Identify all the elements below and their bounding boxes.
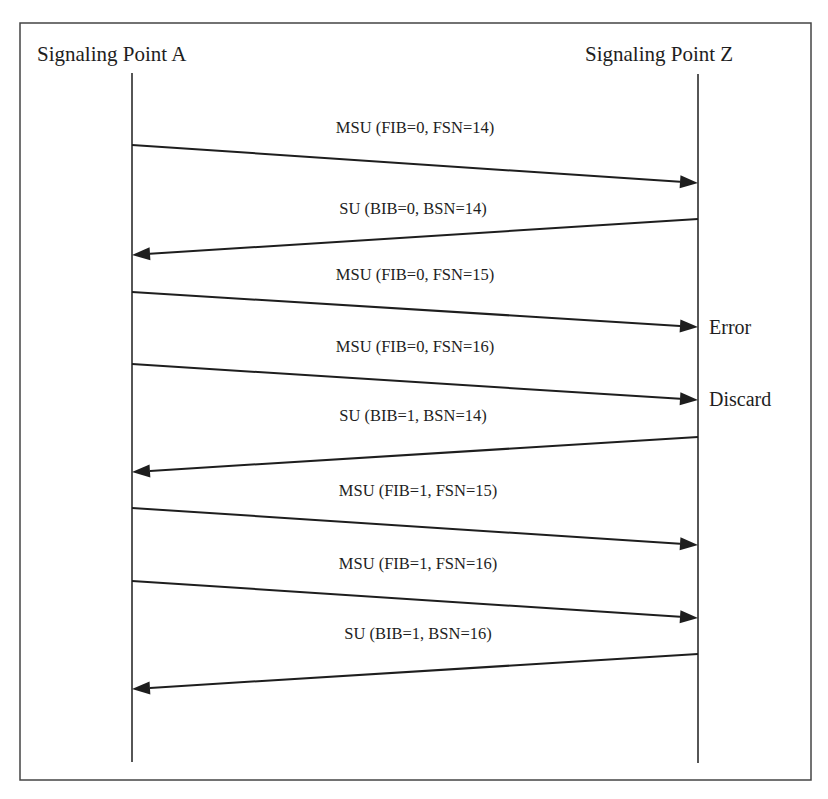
- message-arrow-line: [132, 581, 680, 617]
- arrowhead-icon: [132, 464, 150, 477]
- message-label: MSU (FIB=0, FSN=14): [336, 119, 494, 137]
- message-arrow-line: [132, 145, 680, 182]
- arrowhead-icon: [132, 681, 150, 694]
- arrowhead-icon: [680, 610, 698, 623]
- message-arrow-line: [132, 364, 680, 399]
- arrowhead-icon: [132, 247, 150, 260]
- message-arrow-line: [132, 292, 680, 326]
- message-label: SU (BIB=0, BSN=14): [339, 200, 486, 218]
- message-arrow-line: [132, 508, 680, 544]
- message-label: MSU (FIB=1, FSN=15): [339, 482, 497, 500]
- message-arrow-line: [150, 219, 698, 254]
- message-label: SU (BIB=1, BSN=16): [344, 625, 491, 643]
- message-label: SU (BIB=1, BSN=14): [339, 407, 486, 425]
- message-arrow-line: [150, 437, 698, 471]
- arrowhead-icon: [680, 392, 698, 405]
- arrowhead-icon: [680, 175, 698, 188]
- message-label: MSU (FIB=0, FSN=15): [336, 266, 494, 284]
- arrowhead-icon: [680, 319, 698, 332]
- message-label: MSU (FIB=1, FSN=16): [339, 555, 497, 573]
- sequence-diagram: Signaling Point A Signaling Point Z MSU …: [0, 0, 828, 799]
- participant-title-z: Signaling Point Z: [585, 42, 733, 66]
- message-label: MSU (FIB=0, FSN=16): [336, 338, 494, 356]
- error-note: Error: [709, 316, 751, 338]
- participant-title-a: Signaling Point A: [37, 42, 186, 66]
- arrowhead-icon: [680, 537, 698, 550]
- discard-note: Discard: [709, 388, 771, 410]
- message-arrow-line: [150, 654, 698, 688]
